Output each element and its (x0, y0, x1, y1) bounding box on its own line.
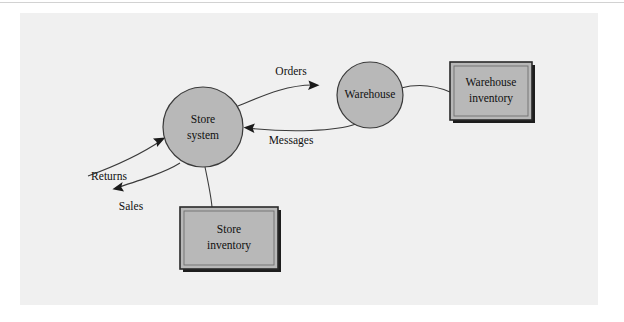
warehouse-label: Warehouse (345, 88, 396, 100)
connector-orders (238, 85, 316, 106)
node-warehouse[interactable]: Warehouse (337, 62, 403, 128)
store-system-circle[interactable] (163, 87, 243, 167)
arrowhead-sales (112, 182, 124, 191)
node-store-system[interactable]: Store system (163, 87, 243, 167)
connector-messages (247, 124, 356, 131)
store-system-label-line2: system (187, 129, 219, 142)
flow-label-orders: Orders (275, 65, 307, 77)
node-store-inventory[interactable]: Store inventory (180, 207, 281, 272)
store-inventory-label-line2: inventory (207, 239, 251, 252)
store-inventory-label-line1: Store (217, 223, 241, 235)
connector-store-system-to-store-inventory (205, 167, 212, 207)
store-system-label-line1: Store (191, 113, 215, 125)
figure-root: Store system Warehouse Warehouse invento… (0, 0, 624, 322)
node-warehouse-inventory[interactable]: Warehouse inventory (450, 62, 535, 123)
flow-label-sales: Sales (119, 200, 144, 212)
warehouse-inventory-label-line1: Warehouse (466, 76, 517, 88)
flow-label-messages: Messages (269, 134, 314, 147)
arrowhead-returns (153, 138, 165, 147)
connector-warehouse-to-warehouse-inventory (401, 85, 450, 92)
flow-label-returns: Returns (91, 170, 127, 182)
warehouse-inventory-label-line2: inventory (469, 92, 513, 105)
diagram-canvas: Store system Warehouse Warehouse invento… (0, 0, 624, 322)
